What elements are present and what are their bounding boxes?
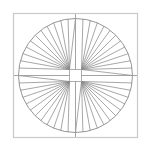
- spoke-line: [82, 30, 111, 69]
- radial-spoke-diagram: [0, 0, 151, 151]
- spoke-line: [76, 82, 82, 133]
- spoke-line: [41, 30, 70, 69]
- spoke-line: [82, 82, 111, 121]
- spoke-line: [41, 82, 70, 121]
- hub-square: [70, 70, 82, 82]
- spoke-line: [82, 70, 133, 76]
- spoke-line: [30, 82, 69, 111]
- spoke-line: [19, 76, 70, 82]
- hub-square-group: [70, 70, 82, 82]
- spoke-line: [70, 19, 76, 70]
- spoke-line: [82, 82, 121, 111]
- figure-container: [0, 0, 151, 151]
- spoke-line: [30, 41, 69, 70]
- spoke-line: [82, 41, 121, 70]
